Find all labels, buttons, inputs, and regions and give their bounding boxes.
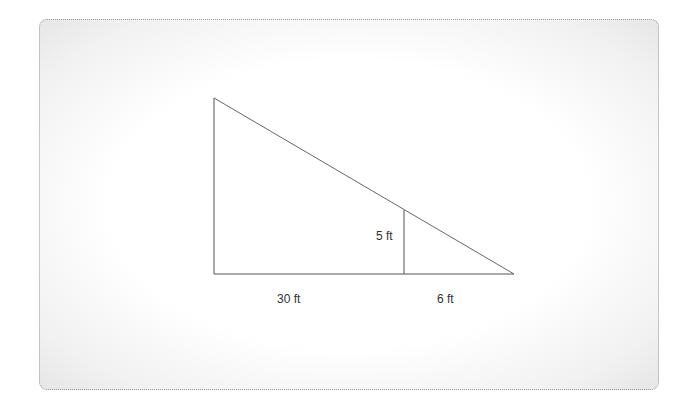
base-right-label: 6 ft bbox=[437, 292, 454, 306]
post-height-label: 5 ft bbox=[376, 229, 393, 243]
base-left-label: 30 ft bbox=[277, 292, 300, 306]
triangle-hypotenuse bbox=[214, 98, 514, 274]
triangle-diagram bbox=[0, 0, 690, 412]
